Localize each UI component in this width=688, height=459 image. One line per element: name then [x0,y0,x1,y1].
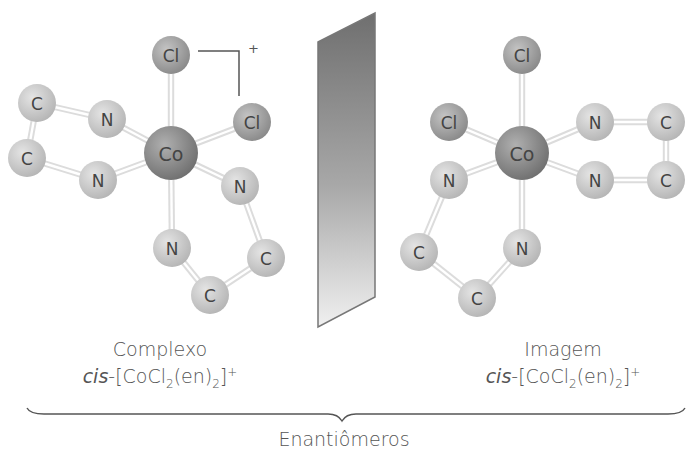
atom-n2: N [576,161,614,199]
atom-cl2: Cl [233,103,271,141]
enantiomers-label: Enantiômeros [244,428,444,450]
atom-label: C [413,243,425,263]
atom-n3: N [221,167,259,205]
atom-label: N [516,239,529,259]
atom-label: C [471,289,483,309]
atom-n4: N [153,229,191,267]
atom-cl2: Cl [430,103,468,141]
atom-label: C [31,94,43,114]
atom-label: C [204,286,216,306]
left-molecule-atoms: CoClClNNNNCCCC [8,36,285,314]
atom-label: N [92,171,105,191]
atom-label: N [589,171,602,191]
atom-label: N [589,113,602,133]
atom-c2: C [647,161,685,199]
enantiomer-brace [27,408,685,421]
atom-n4: N [503,229,541,267]
atom-label: Cl [514,46,531,66]
atom-label: C [21,149,33,169]
enantiomers-diagram: + CoClClNNNNCCCC CoClClNNNNCCCC Complexo… [0,0,688,459]
atom-label: Cl [244,113,261,133]
atom-cl1: Cl [152,36,190,74]
atom-c4: C [191,276,229,314]
atom-n1: N [88,100,126,138]
mirror-plane [318,13,375,327]
atom-label: Cl [163,46,180,66]
atom-label: N [234,177,247,197]
atom-cl1: Cl [503,36,541,74]
atom-n2: N [79,161,117,199]
left-molecule-name: Complexo [60,338,260,360]
right-molecule-formula: cis-[CoCl2(en)2]+ [463,365,663,391]
atom-c2: C [8,139,46,177]
atom-c4: C [458,279,496,317]
atom-label: Co [510,143,535,165]
atom-label: C [660,113,672,133]
atom-label: Cl [441,113,458,133]
charge-bracket-plus: + [248,41,259,56]
atom-c3: C [400,233,438,271]
atom-n1: N [576,103,614,141]
atom-c3: C [247,239,285,277]
left-molecule-formula: cis-[CoCl2(en)2]+ [60,365,260,391]
charge-bracket: + [198,41,259,96]
right-molecule-name: Imagem [463,338,663,360]
atom-co: Co [495,126,549,180]
atom-label: N [443,171,456,191]
atom-label: C [660,171,672,191]
atom-label: Co [159,143,184,165]
atom-label: C [260,249,272,269]
atom-label: N [101,110,114,130]
atom-c1: C [647,103,685,141]
atom-label: N [166,239,179,259]
atom-c1: C [18,84,56,122]
atom-n3: N [430,161,468,199]
atom-co: Co [144,126,198,180]
